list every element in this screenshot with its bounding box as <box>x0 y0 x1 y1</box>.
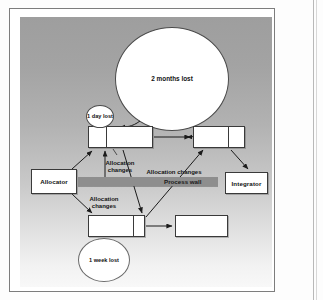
node-divider <box>106 127 107 147</box>
node-integrator[interactable]: Integrator <box>225 172 268 194</box>
page-edge-rule <box>313 0 314 300</box>
diagram-canvas: 2 months lost <box>20 17 272 287</box>
node-bottom-left-task[interactable] <box>88 215 145 237</box>
node-allocator[interactable]: Allocator <box>31 169 77 194</box>
figure-frame: 2 months lost <box>9 8 275 292</box>
delay-bubble-one-week-lost: 1 week lost <box>78 238 130 282</box>
edge-top-right-task-to-integrator <box>231 150 248 169</box>
page-edge-rule-secondary <box>316 0 317 300</box>
edge-label-allocation-changes-right: Allocation changes <box>138 162 210 176</box>
delay-bubble-label: 1 day lost <box>87 113 113 119</box>
node-top-right-task[interactable] <box>193 126 245 148</box>
process-wall-label: Process wall <box>164 178 202 185</box>
page-background: 2 months lost <box>0 0 323 300</box>
edge-label-allocation-changes-lower: Allocation changes <box>78 189 130 210</box>
node-label: Integrator <box>232 180 262 187</box>
delay-bubble-one-day-lost: 1 day lost <box>86 105 114 128</box>
node-divider <box>228 127 229 147</box>
edge-layer <box>20 17 272 287</box>
delay-bubble-label: 1 week lost <box>89 257 119 263</box>
node-top-left-task[interactable] <box>88 126 153 148</box>
node-divider <box>133 216 134 236</box>
node-label: Allocator <box>40 178 68 185</box>
edge-allocator-to-top-task <box>72 151 92 169</box>
node-bottom-right-task[interactable] <box>175 215 228 237</box>
